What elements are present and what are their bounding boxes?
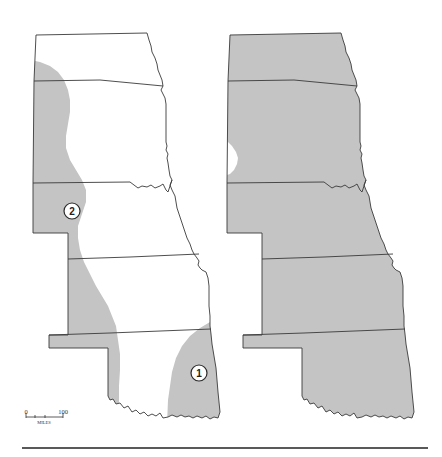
- scale-start-label: 0: [24, 408, 27, 415]
- region-1-marker: 1: [191, 365, 207, 381]
- region-2-marker: 2: [64, 203, 80, 219]
- scale-end-label: 100: [58, 408, 68, 415]
- shaded-region-full: [194, 0, 434, 430]
- region-2-label: 2: [69, 206, 75, 217]
- scale-unit-label: MILES: [37, 420, 51, 425]
- region-1-label: 1: [196, 368, 202, 379]
- scale-bar: 0 100 MILES: [24, 408, 68, 425]
- left-map: 2 1: [0, 0, 230, 430]
- figure-canvas: 2 1 0 100 MILES: [0, 0, 442, 457]
- right-map: [194, 0, 434, 430]
